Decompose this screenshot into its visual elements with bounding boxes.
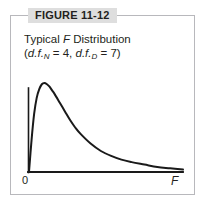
- figure-title-line1: Typical F Distribution: [24, 32, 131, 46]
- x-axis-origin-label: 0: [22, 175, 28, 186]
- figure-number-label: FIGURE 11-12: [35, 10, 110, 21]
- title-suffix: Distribution: [70, 33, 131, 45]
- x-axis-label: F: [171, 175, 178, 187]
- df-numerator-value: = 4,: [50, 47, 76, 59]
- df-denominator-symbol: d.f.: [76, 47, 92, 59]
- df-numerator-symbol: d.f.: [28, 47, 44, 59]
- figure-number-tab: FIGURE 11-12: [28, 8, 117, 23]
- df-denominator-value: = 7): [97, 47, 120, 59]
- figure-title: Typical F Distribution (d.f.N = 4, d.f.D…: [24, 32, 131, 62]
- title-statistic-symbol: F: [63, 33, 70, 45]
- figure-title-line2: (d.f.N = 4, d.f.D = 7): [24, 46, 131, 62]
- df-numerator-subscript: N: [44, 52, 50, 61]
- df-denominator-subscript: D: [92, 52, 98, 61]
- title-prefix: Typical: [24, 33, 63, 45]
